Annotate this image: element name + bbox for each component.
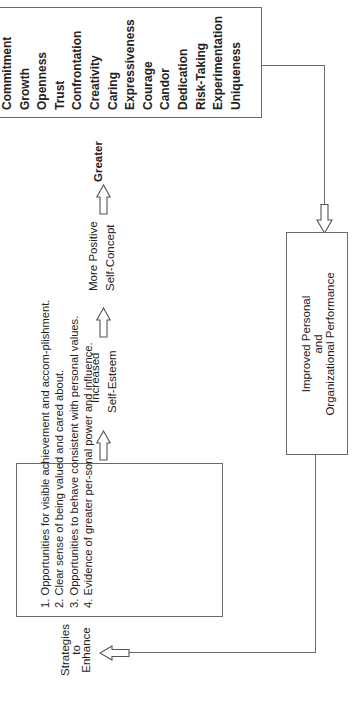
- strategies-label-line3: Enhance: [81, 622, 92, 678]
- performance-line1: Improved Personal: [300, 233, 312, 455]
- strategy-item: 4. Evidence of greater per-sonal power a…: [83, 466, 94, 608]
- self-concept-label: More Positive Self-Concept: [87, 221, 116, 291]
- connector-values-to-performance-h: [261, 65, 325, 66]
- value-item: Dedication: [175, 49, 193, 110]
- value-item: Commitment: [0, 37, 17, 110]
- strategy-item: 2. Clear sense of being valued and cared…: [54, 466, 65, 608]
- arrow-down-icon: [316, 204, 333, 234]
- value-item: Openness: [34, 52, 52, 110]
- self-esteem-line1: Increased: [89, 350, 101, 413]
- strategies-list: 1. Opportunities for visible achievement…: [40, 466, 95, 608]
- strategy-item: 3. Opportunities to behave consistent wi…: [69, 466, 80, 608]
- strategies-label-line1: Strategies: [60, 622, 71, 678]
- arrow-up-icon: [96, 307, 111, 338]
- value-item: Creativity: [87, 55, 105, 110]
- greater-label: Greater: [92, 141, 104, 182]
- value-item: Experimentation: [210, 16, 228, 110]
- value-item: Expressiveness: [122, 19, 140, 110]
- performance-label: Improved Personal and Organizational Per…: [300, 233, 336, 455]
- connector-values-to-performance-v: [324, 65, 325, 206]
- arrow-up-icon: [96, 184, 111, 215]
- performance-line2: and: [312, 233, 324, 455]
- performance-line3: Organizational Performance: [324, 233, 336, 455]
- value-item: Growth: [17, 68, 35, 110]
- value-item: Courage: [140, 61, 158, 110]
- strategies-label: Strategies to Enhance: [60, 622, 92, 678]
- self-concept-line2: Self-Concept: [104, 221, 116, 291]
- value-item: Caring: [105, 72, 123, 110]
- strategy-item: 1. Opportunities for visible achievement…: [40, 466, 51, 608]
- arrow-left-icon: [99, 645, 130, 661]
- self-esteem-label: Increased Self-Esteem: [89, 350, 118, 413]
- self-concept-line1: More Positive: [87, 221, 99, 291]
- value-item: Trust: [52, 81, 70, 110]
- value-item: Uniqueness: [228, 42, 246, 110]
- value-item: Confrontation: [69, 31, 87, 110]
- value-item: Risk-Taking: [193, 43, 211, 110]
- arrow-up-icon: [96, 430, 111, 461]
- value-item: Candor: [157, 68, 175, 110]
- connector-performance-down: [315, 455, 316, 653]
- self-esteem-line2: Self-Esteem: [106, 350, 118, 413]
- connector-performance-left: [128, 652, 316, 653]
